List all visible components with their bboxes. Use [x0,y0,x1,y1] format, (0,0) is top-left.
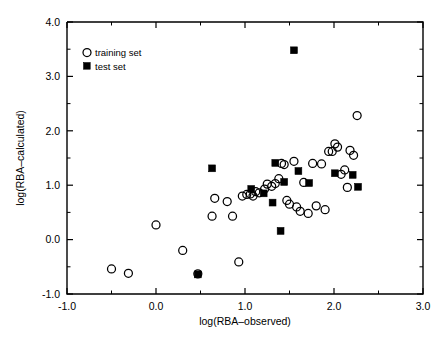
data-point-test-set [331,170,338,177]
y-axis-label: log(RBA–calculated) [14,110,26,206]
y-tick-label: -1.0 [42,288,60,300]
legend-label-test-set: test set [95,61,126,72]
data-point-test-set [291,47,298,54]
x-tick-label: -1.0 [58,300,76,312]
series-training-set-markers [108,112,362,278]
x-tick-label: 2.0 [327,300,342,312]
data-point-training-set [309,159,317,167]
x-tick-label: 0.0 [149,300,164,312]
legend-marker-training-set-icon [83,49,91,57]
data-point-training-set [304,209,312,217]
data-point-test-set [306,180,313,187]
data-point-training-set [343,183,351,191]
x-tick-label: 3.0 [416,300,431,312]
data-point-training-set [179,246,187,254]
x-tick-label: 1.0 [238,300,253,312]
chart-canvas: -1.00.01.02.03.0 -1.00.01.02.03.04.0 tra… [0,0,444,345]
data-point-test-set [209,165,216,172]
data-point-training-set [124,269,132,277]
data-point-test-set [272,159,279,166]
y-tick-label: 4.0 [45,16,60,28]
x-axis-label: log(RBA–observed) [199,315,291,327]
data-point-training-set [312,202,320,210]
data-point-test-set [355,183,362,190]
data-point-training-set [235,258,243,266]
series-test-set-markers [194,47,361,278]
legend-marker-test-set-icon [84,63,91,70]
data-point-test-set [260,190,267,197]
data-point-test-set [269,199,276,206]
data-point-training-set [318,160,326,168]
scatter-plot-figure: -1.00.01.02.03.0 -1.00.01.02.03.04.0 tra… [0,0,444,345]
data-point-test-set [349,171,356,178]
data-point-test-set [194,271,201,278]
y-tick-label: 0.0 [45,233,60,245]
data-point-training-set [152,221,160,229]
chart-legend: training set test set [83,47,142,72]
data-point-training-set [108,265,116,273]
data-point-training-set [208,212,216,220]
data-point-test-set [248,186,255,193]
data-point-training-set [229,212,237,220]
data-point-training-set [353,112,361,120]
data-point-training-set [211,194,219,202]
data-point-training-set [321,206,329,214]
data-point-test-set [281,179,288,186]
y-axis-tick-labels: -1.00.01.02.03.04.0 [42,16,60,300]
data-point-training-set [290,157,298,165]
data-point-training-set [280,161,288,169]
y-tick-label: 1.0 [45,179,60,191]
x-axis-tick-labels: -1.00.01.02.03.0 [58,300,430,312]
data-point-test-set [277,227,284,234]
data-point-training-set [223,198,231,206]
legend-label-training-set: training set [95,47,142,58]
y-tick-label: 3.0 [45,70,60,82]
y-tick-label: 2.0 [45,125,60,137]
data-point-test-set [295,168,302,175]
